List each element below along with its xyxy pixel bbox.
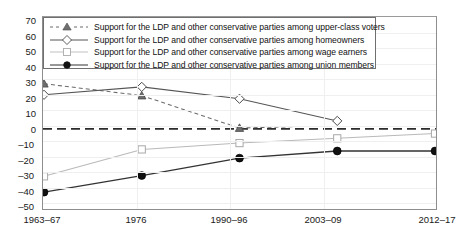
y-tick-label: –20 xyxy=(4,156,34,165)
legend-item: Support for the LDP and other conservati… xyxy=(48,59,371,71)
series-line-stub xyxy=(240,127,298,128)
data-point-diamond xyxy=(333,116,342,125)
y-tick-label: –40 xyxy=(4,187,34,196)
y-tick-label: –30 xyxy=(4,171,34,180)
x-tick-label: 1963–67 xyxy=(10,215,74,225)
y-tick-label: 60 xyxy=(6,32,36,41)
data-point-triangle xyxy=(43,80,48,88)
chart-figure: 70 60 50 40 30 20 10 0 –10 –20 –30 –40 –… xyxy=(0,0,474,247)
data-point-circle xyxy=(236,154,244,162)
gridline xyxy=(43,79,436,80)
legend-symbol-circle-filled xyxy=(48,59,94,71)
gridline xyxy=(43,188,436,189)
legend-item: Support for the LDP and other conservati… xyxy=(48,46,371,58)
data-point-diamond xyxy=(235,94,244,103)
data-point-circle xyxy=(431,147,436,155)
legend-item: Support for the LDP and other conservati… xyxy=(48,21,371,33)
y-tick-label: 50 xyxy=(6,47,36,56)
legend-symbol-square-solid xyxy=(48,46,94,58)
x-tick-label: 1976 xyxy=(104,215,168,225)
legend-item-label: Support for the LDP and other conservati… xyxy=(94,59,374,71)
x-tick-label: 2003–09 xyxy=(291,215,355,225)
data-point-square xyxy=(431,130,436,137)
gridline xyxy=(43,110,436,111)
legend-symbol-triangle-dashed xyxy=(48,21,94,33)
legend-item-label: Support for the LDP and other conservati… xyxy=(94,46,367,58)
series-line xyxy=(44,87,337,121)
x-tick-label: 1990–96 xyxy=(197,215,261,225)
legend-item-label: Support for the LDP and other conservati… xyxy=(94,34,364,46)
gridline xyxy=(43,95,436,96)
y-tick-label: –10 xyxy=(4,140,34,149)
y-tick-label: 10 xyxy=(6,109,36,118)
data-point-circle xyxy=(333,147,341,155)
y-tick-label: 40 xyxy=(6,63,36,72)
gridline xyxy=(43,141,436,142)
y-tick-label: –50 xyxy=(4,202,34,211)
legend-item: Support for the LDP and other conservati… xyxy=(48,34,371,46)
data-point-square xyxy=(43,173,48,180)
gridline xyxy=(43,172,436,173)
gridline xyxy=(43,157,436,158)
y-tick-label: 70 xyxy=(6,16,36,25)
gridline xyxy=(43,126,436,127)
x-tick-label: 2012–17 xyxy=(405,215,469,225)
legend: Support for the LDP and other conservati… xyxy=(43,17,376,69)
data-point-diamond xyxy=(137,82,146,91)
y-tick-label: 30 xyxy=(6,78,36,87)
data-point-circle xyxy=(43,188,48,196)
data-point-square xyxy=(138,146,145,153)
y-tick-label: 0 xyxy=(6,125,36,134)
gridline xyxy=(43,203,436,204)
y-tick-label: 20 xyxy=(6,94,36,103)
legend-item-label: Support for the LDP and other conservati… xyxy=(94,21,385,33)
legend-symbol-diamond-solid xyxy=(48,34,94,46)
